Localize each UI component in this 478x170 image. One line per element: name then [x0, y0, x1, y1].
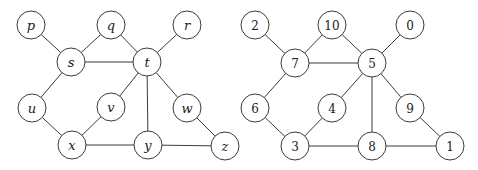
- node-label-p: p: [27, 18, 36, 33]
- graph-node-v[interactable]: v: [97, 93, 125, 121]
- node-label-r: r: [184, 18, 191, 33]
- graph-edge-y-z: [162, 145, 211, 146]
- graph-edge-7-6: [264, 73, 285, 97]
- node-label-3: 3: [291, 140, 299, 154]
- node-label-v: v: [107, 100, 115, 115]
- graph-figure: pqrstuvwxyz210075649381: [0, 0, 478, 170]
- node-label-8: 8: [368, 140, 376, 154]
- graph-edge-4-3: [305, 118, 322, 136]
- graph-canvas: pqrstuvwxyz210075649381: [0, 0, 478, 170]
- graph-node-x[interactable]: x: [58, 131, 86, 159]
- node-label-u: u: [28, 101, 36, 116]
- graph-node-7[interactable]: 7: [281, 49, 309, 77]
- graph-node-t[interactable]: t: [133, 48, 161, 76]
- node-label-q: q: [107, 18, 115, 33]
- node-label-s: s: [68, 55, 75, 70]
- node-label-7: 7: [291, 57, 299, 71]
- graph-node-z[interactable]: z: [211, 132, 239, 160]
- graph-node-2[interactable]: 2: [241, 11, 269, 39]
- node-label-w: w: [181, 101, 192, 116]
- node-label-0: 0: [406, 19, 414, 33]
- graph-edge-t-y: [147, 76, 148, 131]
- graph-node-u[interactable]: u: [18, 94, 46, 122]
- node-label-2: 2: [251, 19, 259, 33]
- node-label-z: z: [221, 139, 229, 154]
- graph-edge-p-s: [41, 35, 60, 53]
- graph-node-6[interactable]: 6: [241, 94, 269, 122]
- graph-node-y[interactable]: y: [134, 131, 162, 159]
- nodes-layer: pqrstuvwxyz210075649381: [17, 11, 464, 160]
- graph-node-3[interactable]: 3: [281, 132, 309, 160]
- graph-edge-q-t: [121, 35, 137, 52]
- graph-node-q[interactable]: q: [97, 11, 125, 39]
- graph-edge-t-v: [120, 73, 139, 96]
- graph-node-1[interactable]: 1: [436, 132, 464, 160]
- graph-edge-6-3: [265, 118, 285, 137]
- graph-edge-9-1: [420, 118, 440, 137]
- node-label-t: t: [144, 55, 150, 70]
- node-label-5: 5: [368, 57, 376, 71]
- graph-edge-0-5: [382, 35, 400, 53]
- graph-node-r[interactable]: r: [173, 11, 201, 39]
- graph-node-9[interactable]: 9: [396, 94, 424, 122]
- node-label-1: 1: [446, 140, 454, 154]
- node-label-6: 6: [251, 102, 259, 116]
- graph-edge-5-9: [381, 74, 401, 98]
- graph-edge-r-t: [157, 35, 176, 53]
- graph-edge-t-w: [156, 73, 178, 98]
- graph-edge-w-z: [197, 118, 215, 136]
- graph-node-5[interactable]: 5: [358, 49, 386, 77]
- graph-edge-2-7: [265, 35, 285, 54]
- node-label-4: 4: [328, 102, 336, 116]
- node-label-10: 10: [324, 19, 339, 33]
- graph-node-4[interactable]: 4: [318, 94, 346, 122]
- node-label-9: 9: [406, 102, 414, 116]
- graph-edge-s-u: [41, 73, 62, 98]
- graph-edge-10-5: [342, 35, 362, 54]
- graph-node-0[interactable]: 0: [396, 11, 424, 39]
- node-label-y: y: [143, 138, 152, 153]
- graph-node-10[interactable]: 10: [318, 11, 346, 39]
- graph-edge-u-x: [42, 118, 61, 136]
- graph-edge-q-s: [81, 35, 100, 53]
- graph-edge-10-7: [305, 35, 322, 53]
- graph-node-s[interactable]: s: [57, 48, 85, 76]
- graph-node-p[interactable]: p: [17, 11, 45, 39]
- node-label-x: x: [68, 138, 76, 153]
- graph-edge-v-x: [82, 117, 101, 135]
- graph-node-w[interactable]: w: [173, 94, 201, 122]
- graph-edge-5-4: [341, 73, 362, 97]
- graph-node-8[interactable]: 8: [358, 132, 386, 160]
